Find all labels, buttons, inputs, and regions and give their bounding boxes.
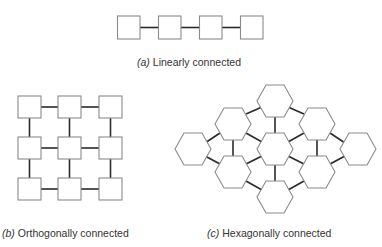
caption-c: (c)Hexagonally connected <box>207 227 331 239</box>
node-hexagon <box>257 85 293 117</box>
caption-c-text: Hexagonally connected <box>222 227 331 239</box>
node-square <box>18 178 41 200</box>
node-square <box>58 178 81 200</box>
node-hexagon <box>215 156 251 188</box>
caption-a-text: Linearly connected <box>153 56 241 68</box>
node-hexagon <box>299 108 335 140</box>
caption-b-tag: (b) <box>2 227 15 239</box>
caption-a: (a)Linearly connected <box>137 56 241 68</box>
node-square <box>99 96 122 118</box>
panel-b-orthogonal <box>18 96 122 200</box>
caption-b-text: Orthogonally connected <box>18 227 129 239</box>
caption-a-tag: (a) <box>137 56 150 68</box>
node-hexagon <box>175 133 211 165</box>
node-square <box>241 16 264 39</box>
node-square <box>99 178 122 200</box>
node-hexagon <box>340 133 376 165</box>
node-square <box>58 96 81 118</box>
panel-c-hexagonal <box>175 85 376 213</box>
node-square <box>58 137 81 159</box>
interconnection-diagram <box>0 0 382 247</box>
panel-a-linear <box>118 16 264 39</box>
node-square <box>99 137 122 159</box>
node-square <box>159 16 182 39</box>
node-hexagon <box>215 108 251 140</box>
node-square <box>18 96 41 118</box>
node-hexagon <box>299 156 335 188</box>
node-square <box>200 16 223 39</box>
node-square <box>18 137 41 159</box>
node-hexagon <box>257 133 293 165</box>
node-hexagon <box>257 181 293 213</box>
node-square <box>118 16 141 39</box>
caption-c-tag: (c) <box>207 227 219 239</box>
caption-b: (b)Orthogonally connected <box>2 227 129 239</box>
